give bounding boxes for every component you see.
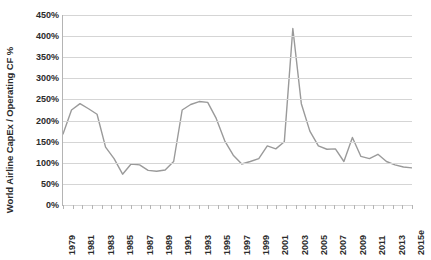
- x-tick-label: 1985: [125, 235, 135, 255]
- y-tick-label: 150%: [36, 137, 59, 147]
- x-tick: [334, 205, 335, 209]
- x-tick: [383, 205, 384, 209]
- gridline: [63, 163, 412, 164]
- x-tick: [354, 205, 355, 209]
- x-tick-label: 2007: [338, 235, 348, 255]
- y-tick-label: 200%: [36, 116, 59, 126]
- x-tick: [257, 205, 258, 209]
- x-tick: [296, 205, 297, 209]
- y-tick-label: 400%: [36, 31, 59, 41]
- gridline: [63, 57, 412, 58]
- x-tick: [160, 205, 161, 209]
- x-tick: [218, 205, 219, 209]
- x-tick: [286, 205, 287, 209]
- x-tick: [208, 205, 209, 209]
- x-tick-label: 2003: [300, 235, 310, 255]
- x-tick: [189, 205, 190, 209]
- y-tick-label: 450%: [36, 10, 59, 20]
- x-tick: [305, 205, 306, 209]
- y-tick-label: 0%: [46, 200, 59, 210]
- x-tick-label: 2009: [358, 235, 368, 255]
- y-tick-label: 350%: [36, 52, 59, 62]
- x-axis-tick-labels: 1979198119831985198719891991199319951997…: [0, 211, 431, 260]
- gridline: [63, 99, 412, 100]
- x-tick-label: 1987: [145, 235, 155, 255]
- x-tick: [247, 205, 248, 209]
- x-tick: [228, 205, 229, 209]
- x-tick: [199, 205, 200, 209]
- x-tick: [102, 205, 103, 209]
- x-tick: [73, 205, 74, 209]
- x-tick: [267, 205, 268, 209]
- x-tick-label: 1995: [222, 235, 232, 255]
- gridline: [63, 36, 412, 37]
- x-tick: [179, 205, 180, 209]
- x-tick: [121, 205, 122, 209]
- x-tick: [238, 205, 239, 209]
- y-tick-label: 300%: [36, 73, 59, 83]
- y-tick-label: 100%: [36, 158, 59, 168]
- x-tick-label: 2015e: [416, 230, 426, 255]
- x-tick: [141, 205, 142, 209]
- x-tick: [315, 205, 316, 209]
- gridline: [63, 184, 412, 185]
- x-tick-label: 1983: [106, 235, 116, 255]
- x-tick-label: 1997: [242, 235, 252, 255]
- x-tick: [344, 205, 345, 209]
- x-tick-label: 1981: [86, 235, 96, 255]
- x-tick: [325, 205, 326, 209]
- gridline: [63, 15, 412, 16]
- chart-container: World Airline CapEx / Operating CF % 0%5…: [0, 0, 431, 260]
- gridline: [63, 142, 412, 143]
- x-tick-label: 2011: [377, 235, 387, 255]
- x-tick-label: 2001: [280, 235, 290, 255]
- x-tick: [63, 205, 64, 209]
- x-tick-label: 1999: [261, 235, 271, 255]
- y-tick-label: 250%: [36, 94, 59, 104]
- x-tick: [276, 205, 277, 209]
- x-tick: [150, 205, 151, 209]
- x-tick: [92, 205, 93, 209]
- x-tick-label: 2013: [397, 235, 407, 255]
- x-tick: [170, 205, 171, 209]
- gridline: [63, 121, 412, 122]
- x-tick: [402, 205, 403, 209]
- plot-area: [63, 15, 412, 205]
- gridline: [63, 78, 412, 79]
- y-tick-label: 50%: [41, 179, 59, 189]
- x-tick-label: 1993: [203, 235, 213, 255]
- x-tick: [412, 205, 413, 209]
- series-line: [63, 15, 412, 205]
- x-tick: [373, 205, 374, 209]
- x-tick-label: 2005: [319, 235, 329, 255]
- x-tick-label: 1989: [164, 235, 174, 255]
- x-tick: [131, 205, 132, 209]
- x-tick-label: 1991: [183, 235, 193, 255]
- x-tick: [82, 205, 83, 209]
- x-tick-label: 1979: [67, 235, 77, 255]
- x-tick: [111, 205, 112, 209]
- x-tick: [393, 205, 394, 209]
- x-tick: [364, 205, 365, 209]
